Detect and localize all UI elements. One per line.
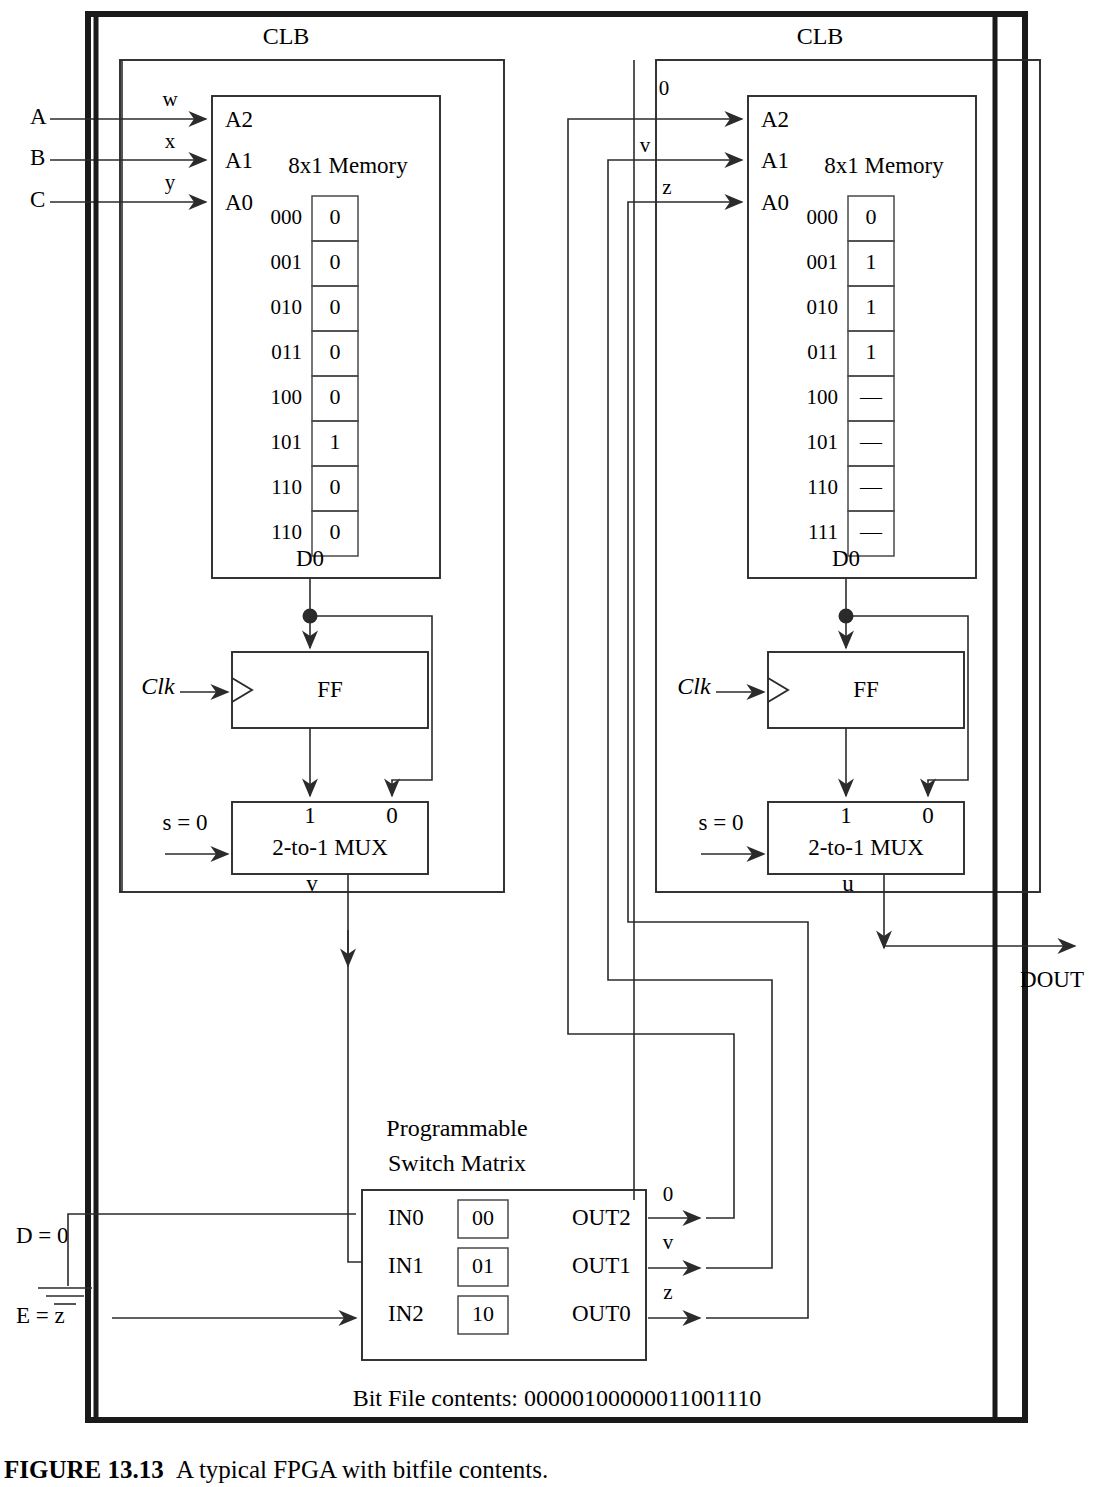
- memory-value: —: [859, 429, 883, 454]
- memory-value: 1: [866, 294, 877, 319]
- dout-label: DOUT: [1020, 967, 1084, 992]
- clb-right-title: CLB: [797, 23, 844, 49]
- clb-left-pin-d0: D0: [296, 546, 324, 571]
- memory-address: 101: [271, 430, 303, 454]
- memory-value: 0: [330, 204, 341, 229]
- switch-matrix-pin-in1: IN1: [388, 1253, 424, 1278]
- clb-right-memory-title: 8x1 Memory: [824, 153, 944, 178]
- memory-address: 010: [807, 295, 839, 319]
- memory-address: 101: [807, 430, 839, 454]
- wire-left-bypass-to-mux0: [310, 616, 432, 796]
- memory-value: 0: [330, 249, 341, 274]
- switch-matrix-pin-out2: OUT2: [572, 1205, 631, 1230]
- clb-right-mux-select-label: s = 0: [699, 810, 744, 835]
- fpga-figure: CLB 8x1 Memory A2 A1 A0 A B C w x y 000 …: [0, 0, 1106, 1487]
- route-label-x: x: [165, 129, 176, 153]
- memory-address: 110: [271, 475, 302, 499]
- input-label-c: C: [30, 187, 45, 212]
- memory-address: 011: [271, 340, 302, 364]
- switch-matrix-title-line2: Switch Matrix: [388, 1150, 526, 1176]
- clb-right-mux-input-0: 0: [922, 803, 934, 828]
- clb-right-clk-label: Clk: [677, 673, 711, 699]
- ground-icon: [38, 1250, 92, 1304]
- memory-address: 000: [271, 205, 303, 229]
- switch-matrix-config-value: 01: [472, 1253, 494, 1278]
- memory-value: 0: [330, 519, 341, 544]
- switch-matrix-pin-out0: OUT0: [572, 1301, 631, 1326]
- clb-right-mux-output-label: u: [842, 871, 854, 896]
- switch-matrix-config-value: 10: [472, 1301, 494, 1326]
- input-label-a: A: [30, 104, 47, 129]
- clb-left-mux-select-label: s = 0: [163, 810, 208, 835]
- memory-address: 011: [807, 340, 838, 364]
- figure-caption-label: FIGURE 13.13: [4, 1456, 164, 1483]
- switch-matrix-pin-in0: IN0: [388, 1205, 424, 1230]
- clb-left-pin-a2: A2: [225, 107, 253, 132]
- memory-value: 0: [330, 474, 341, 499]
- clb-right-mux-input-1: 1: [840, 803, 852, 828]
- input-label-d: D = 0: [16, 1223, 69, 1248]
- memory-address: 100: [807, 385, 839, 409]
- clb-right-pin-a2: A2: [761, 107, 789, 132]
- switch-matrix-pin-in2: IN2: [388, 1301, 424, 1326]
- memory-value: 0: [330, 339, 341, 364]
- clb-right-mux-label: 2-to-1 MUX: [808, 835, 924, 860]
- memory-value: 0: [330, 384, 341, 409]
- memory-value: 1: [866, 249, 877, 274]
- input-label-b: B: [30, 145, 45, 170]
- bitfile-contents-text: Bit File contents: 00000100000011001110: [353, 1385, 762, 1411]
- memory-value: 1: [330, 429, 341, 454]
- clb-right-signal-a1: v: [640, 133, 651, 157]
- clb-right-signal-a0: z: [662, 175, 671, 199]
- input-label-e: E = z: [16, 1303, 65, 1328]
- clb-left-mux-output-label: v: [306, 871, 318, 896]
- switch-matrix-signal-out0: z: [663, 1280, 672, 1304]
- clb-left-pin-a0: A0: [225, 190, 253, 215]
- memory-value: 0: [866, 204, 877, 229]
- memory-address: 001: [807, 250, 839, 274]
- clb-left-memory-title: 8x1 Memory: [288, 153, 408, 178]
- memory-address: 110: [271, 520, 302, 544]
- clb-left-pin-a1: A1: [225, 148, 253, 173]
- route-label-y: y: [165, 170, 176, 194]
- clb-right-ff-clock-triangle: [768, 678, 788, 702]
- clb-right-pin-d0: D0: [832, 546, 860, 571]
- clb-right-signal-a2: 0: [659, 76, 670, 100]
- switch-matrix-config-value: 00: [472, 1205, 494, 1230]
- memory-value: —: [859, 474, 883, 499]
- wire-right-bypass-to-mux0: [846, 616, 968, 796]
- memory-value: —: [859, 384, 883, 409]
- memory-address: 001: [271, 250, 303, 274]
- memory-address: 000: [807, 205, 839, 229]
- switch-matrix-title-line1: Programmable: [386, 1115, 527, 1141]
- clb-left-mux-input-0: 0: [386, 803, 398, 828]
- switch-matrix-signal-out2: 0: [663, 1182, 674, 1206]
- memory-value: 0: [330, 294, 341, 319]
- memory-value: —: [859, 519, 883, 544]
- fpga-chip-boundary: [88, 14, 1025, 1420]
- memory-address: 010: [271, 295, 303, 319]
- clb-right-pin-a0: A0: [761, 190, 789, 215]
- switch-matrix-pin-out1: OUT1: [572, 1253, 631, 1278]
- wire-out0-to-a0: [628, 202, 808, 1318]
- memory-address: 100: [271, 385, 303, 409]
- clb-right-pin-a1: A1: [761, 148, 789, 173]
- memory-address: 111: [808, 520, 838, 544]
- wire-d-to-in0: [68, 1214, 356, 1250]
- clb-left-clk-label: Clk: [141, 673, 175, 699]
- figure-caption-text: A typical FPGA with bitfile contents.: [176, 1456, 548, 1483]
- wire-left-v-to-in1: [348, 874, 362, 1262]
- switch-matrix-signal-out1: v: [663, 1230, 674, 1254]
- clb-left-mux-input-1: 1: [304, 803, 316, 828]
- clb-left-title: CLB: [263, 23, 310, 49]
- memory-value: 1: [866, 339, 877, 364]
- wire-out2-to-a2: [568, 119, 742, 1218]
- clb-left-ff-clock-triangle: [232, 678, 252, 702]
- clb-left-ff-label: FF: [317, 677, 343, 702]
- memory-address: 110: [807, 475, 838, 499]
- route-label-w: w: [162, 87, 178, 111]
- clb-left-mux-label: 2-to-1 MUX: [272, 835, 388, 860]
- clb-right-ff-label: FF: [853, 677, 879, 702]
